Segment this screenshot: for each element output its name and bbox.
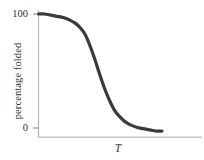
y-tick-label-100: 100 <box>6 8 28 20</box>
x-axis-title: T <box>98 141 138 155</box>
chart-figure: percentage folded 100 0 T <box>0 0 204 160</box>
plot-area <box>0 0 204 160</box>
y-tick-label-0: 0 <box>6 122 28 134</box>
denaturation-curve <box>39 14 163 131</box>
